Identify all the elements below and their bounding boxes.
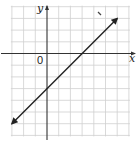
axes <box>1 6 135 140</box>
origin-label: 0 <box>37 54 43 66</box>
coordinate-plane: y x 0 <box>0 0 137 141</box>
x-axis-label: x <box>129 52 136 65</box>
y-axis-label: y <box>36 2 44 15</box>
series <box>12 18 117 123</box>
stray-mark <box>98 12 101 15</box>
series-line <box>12 18 117 123</box>
grid <box>11 6 130 137</box>
